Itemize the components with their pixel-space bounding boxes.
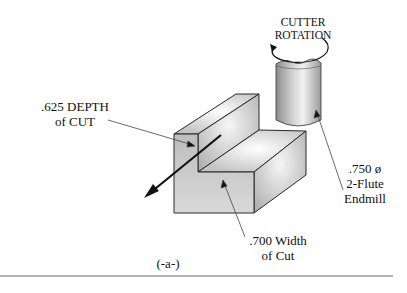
endmill-diameter: .750 ø <box>330 161 400 176</box>
endmill-slot-diagram <box>0 0 407 293</box>
endmill-label: .750 ø 2-Flute Endmill <box>330 161 400 206</box>
depth-of-cut-label: .625 DEPTH of CUT <box>30 99 120 129</box>
depth-of-cut-line-1: .625 DEPTH <box>30 99 120 114</box>
cutter-rotation-label: CUTTER ROTATION <box>268 16 338 42</box>
figure-caption: (-a-) <box>148 256 188 271</box>
endmill-flutes: 2-Flute <box>330 176 400 191</box>
cutter-rotation-line-2: ROTATION <box>268 29 338 42</box>
cutter-rotation-line-1: CUTTER <box>268 16 338 29</box>
depth-of-cut-line-2: of CUT <box>30 114 120 129</box>
width-of-cut-label: .700 Width of Cut <box>240 233 316 263</box>
endmill-type: Endmill <box>330 191 400 206</box>
width-of-cut-line-2: of Cut <box>240 248 316 263</box>
width-of-cut-line-1: .700 Width <box>240 233 316 248</box>
